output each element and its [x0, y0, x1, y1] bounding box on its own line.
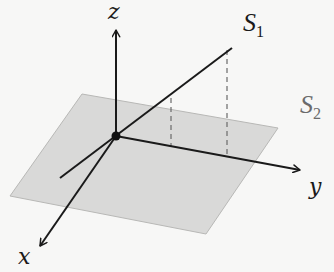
s2-label: S2: [300, 92, 321, 122]
s2-label-subscript: 2: [313, 105, 321, 122]
x-axis-label: x: [18, 246, 30, 268]
s1-label-main: S: [243, 8, 256, 37]
z-axis-label: z: [108, 1, 120, 23]
y-axis-label: y: [309, 176, 321, 198]
s1-label-subscript: 1: [256, 23, 264, 40]
s1-label: S1: [243, 10, 264, 40]
diagram-svg: [0, 0, 334, 272]
origin-point: [112, 132, 121, 141]
s2-label-main: S: [300, 90, 313, 119]
diagram-canvas: z y x S1 S2: [0, 0, 334, 272]
